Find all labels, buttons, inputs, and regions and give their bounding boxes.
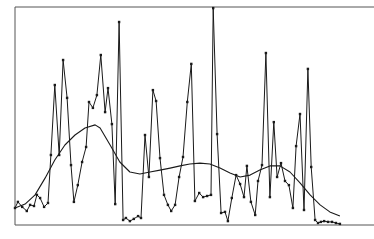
data-point-marker (104, 111, 106, 113)
data-point-marker (307, 68, 309, 70)
data-point-marker (239, 183, 241, 185)
data-point-marker (47, 202, 49, 204)
data-point-marker (202, 196, 204, 198)
data-point-marker (206, 195, 208, 197)
data-point-marker (327, 221, 329, 223)
data-point-marker (303, 209, 305, 211)
data-point-marker (29, 204, 31, 206)
data-point-marker (107, 87, 109, 89)
data-point-marker (129, 220, 131, 222)
data-point-marker (140, 217, 142, 219)
data-point-marker (224, 211, 226, 213)
data-point-marker (148, 176, 150, 178)
data-point-marker (114, 203, 116, 205)
data-point-marker (100, 54, 102, 56)
data-point-marker (261, 164, 263, 166)
data-point-marker (280, 162, 282, 164)
data-point-marker (190, 63, 192, 65)
data-point-marker (216, 133, 218, 135)
data-point-marker (50, 154, 52, 156)
data-point-marker (198, 192, 200, 194)
data-point-marker (43, 206, 45, 208)
data-point-marker (58, 154, 60, 156)
data-point-marker (33, 205, 35, 207)
data-point-marker (17, 201, 19, 203)
data-point-marker (21, 206, 23, 208)
data-point-marker (163, 194, 165, 196)
data-point-marker (174, 204, 176, 206)
data-point-marker (288, 184, 290, 186)
data-point-marker (186, 101, 188, 103)
data-point-marker (339, 223, 341, 225)
data-point-marker (96, 94, 98, 96)
data-point-marker (159, 157, 161, 159)
data-point-marker (88, 101, 90, 103)
data-point-marker (194, 200, 196, 202)
data-point-marker (66, 97, 68, 99)
data-point-marker (118, 21, 120, 23)
data-point-marker (167, 204, 169, 206)
data-point-marker (231, 197, 233, 199)
data-point-marker (254, 214, 256, 216)
data-point-marker (155, 100, 157, 102)
data-point-marker (246, 165, 248, 167)
data-point-marker (265, 52, 267, 54)
data-point-marker (39, 197, 41, 199)
data-point-marker (335, 222, 337, 224)
data-point-marker (122, 219, 124, 221)
data-point-marker (54, 84, 56, 86)
data-point-marker (276, 176, 278, 178)
data-point-marker (320, 221, 322, 223)
data-point-marker (152, 89, 154, 91)
data-point-marker (125, 217, 127, 219)
data-point-marker (235, 174, 237, 176)
data-point-marker (257, 180, 259, 182)
line-chart (0, 0, 374, 239)
data-point-marker (210, 194, 212, 196)
data-point-marker (299, 113, 301, 115)
data-point-marker (284, 180, 286, 182)
data-point-marker (111, 123, 113, 125)
data-point-marker (14, 207, 16, 209)
data-point-marker (77, 184, 79, 186)
data-point-marker (295, 145, 297, 147)
data-point-marker (243, 196, 245, 198)
data-point-marker (36, 194, 38, 196)
data-point-marker (137, 215, 139, 217)
data-point-marker (227, 220, 229, 222)
data-point-marker (85, 146, 87, 148)
data-point-marker (81, 161, 83, 163)
data-point-marker (273, 121, 275, 123)
data-point-marker (250, 201, 252, 203)
data-point-marker (178, 176, 180, 178)
data-point-marker (220, 212, 222, 214)
data-point-marker (292, 207, 294, 209)
data-point-marker (212, 7, 214, 9)
data-point-marker (62, 59, 64, 61)
data-point-marker (269, 196, 271, 198)
data-point-marker (73, 201, 75, 203)
data-point-marker (26, 210, 28, 212)
data-point-marker (133, 218, 135, 220)
data-point-marker (323, 220, 325, 222)
data-point-marker (70, 164, 72, 166)
data-point-marker (317, 222, 319, 224)
data-point-marker (92, 107, 94, 109)
data-point-marker (310, 166, 312, 168)
data-point-marker (331, 221, 333, 223)
data-point-marker (314, 219, 316, 221)
data-point-marker (144, 134, 146, 136)
data-point-marker (170, 210, 172, 212)
data-point-marker (182, 156, 184, 158)
